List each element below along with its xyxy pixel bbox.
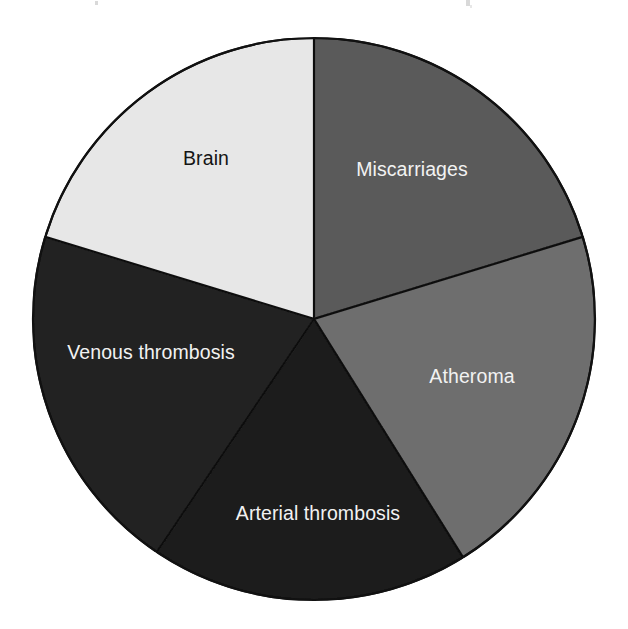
pie-chart-figure: MiscarriagesAtheromaArterial thrombosisV… <box>0 0 628 629</box>
pie-chart-svg <box>0 0 628 629</box>
pie-slices-group <box>33 38 595 600</box>
